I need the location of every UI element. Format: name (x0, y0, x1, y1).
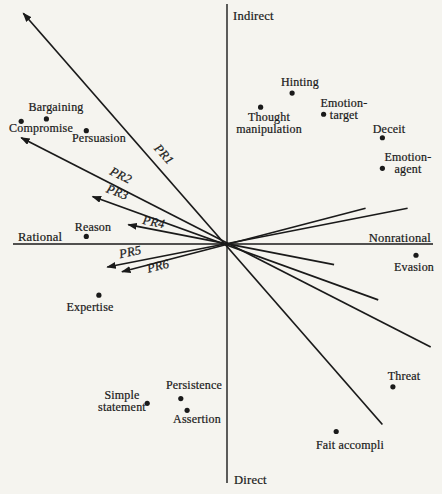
point-label-line: Evasion (394, 260, 434, 274)
biplot-figure: IndirectDirectRationalNonrational PR1PR2… (0, 0, 442, 494)
point-dot-evasion (413, 253, 418, 258)
point-label-threat: Threat (388, 369, 421, 383)
axis-label-rational: Rational (18, 230, 63, 244)
point-label-line: Persuasion (72, 131, 126, 145)
point-label-hinting: Hinting (281, 75, 319, 89)
scatter-biplot-chart: IndirectDirectRationalNonrational PR1PR2… (0, 0, 442, 494)
points-layer: BargainingCompromisePersuasionHintingTho… (9, 75, 434, 452)
point-dot-fait-accompli (334, 429, 339, 434)
axis-label-direct: Direct (234, 473, 267, 487)
point-label-compromise: Compromise (9, 121, 73, 135)
axis-label-nonrational: Nonrational (369, 231, 432, 245)
point-label-line: Bargaining (28, 100, 83, 114)
point-label-simple-statement: Simplestatement (98, 388, 146, 414)
point-label-line: target (330, 108, 359, 122)
point-label-line: Assertion (173, 412, 221, 426)
point-label-line: Hinting (281, 75, 319, 89)
point-label-evasion: Evasion (394, 260, 434, 274)
point-label-persuasion: Persuasion (72, 131, 126, 145)
point-dot-threat (390, 384, 395, 389)
point-label-reason: Reason (75, 220, 112, 234)
point-label-line: Deceit (373, 122, 406, 136)
point-label-expertise: Expertise (66, 300, 113, 314)
point-label-emotion-target: Emotion-target (321, 96, 368, 122)
vectors-layer: PR1PR2PR3PR4PR5PR6 (21, 13, 431, 424)
point-dot-hinting (290, 91, 295, 96)
point-label-line: agent (395, 162, 422, 176)
point-dot-emotion-target (321, 112, 326, 117)
point-label-thought-manipulation: Thoughtmanipulation (236, 110, 302, 136)
point-label-line: Reason (75, 220, 112, 234)
point-label-fait-accompli: Fait accompli (316, 438, 385, 452)
point-label-line: Persistence (166, 378, 222, 392)
point-label-assertion: Assertion (173, 412, 221, 426)
point-dot-expertise (96, 293, 101, 298)
axis-label-indirect: Indirect (233, 9, 274, 23)
point-label-line: Expertise (66, 300, 113, 314)
point-dot-reason (84, 234, 89, 239)
point-label-emotion-agent: Emotion-agent (385, 150, 432, 176)
point-label-line: Fait accompli (316, 438, 385, 452)
vector-line-pr1 (23, 13, 382, 424)
point-label-line: Threat (388, 369, 421, 383)
point-label-line: Compromise (9, 121, 73, 135)
point-dot-persistence (178, 396, 183, 401)
point-label-bargaining: Bargaining (28, 100, 83, 114)
point-label-deceit: Deceit (373, 122, 406, 136)
point-label-line: statement (98, 400, 146, 414)
point-label-line: manipulation (236, 122, 302, 136)
point-dot-emotion-agent (380, 166, 385, 171)
vector-label-pr5: PR5 (117, 243, 143, 261)
point-label-persistence: Persistence (166, 378, 222, 392)
